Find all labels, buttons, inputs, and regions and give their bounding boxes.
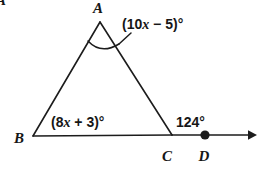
triangle-diagram-svg: A B C D (10x − 5)° (8x + 3)° 124°: [0, 0, 260, 170]
angle-b-degree: °: [99, 114, 105, 130]
angle-c-degree: °: [199, 114, 205, 130]
angle-label-a: (10x − 5)°: [122, 16, 183, 32]
angle-b-open: (8: [51, 114, 64, 130]
angle-a-operator: − 5): [149, 16, 177, 32]
vertex-label-d: D: [198, 148, 210, 164]
ray-arrowhead-icon: [248, 130, 257, 140]
angle-leader-a: [119, 33, 131, 44]
segment-ac: [100, 22, 172, 135]
vertex-label-b: B: [13, 130, 24, 146]
angle-b-variable: x: [62, 115, 70, 130]
angle-b-operator: + 3): [70, 114, 98, 130]
angle-label-exterior-c: 124°: [176, 114, 205, 130]
segment-bc: [33, 135, 172, 136]
geometry-figure: A A B C D (10x − 5)° (8x + 3)°: [0, 0, 260, 170]
angle-c-open: 124: [176, 114, 200, 130]
angle-a-degree: °: [178, 16, 184, 32]
angle-label-b: (8x + 3)°: [51, 114, 104, 130]
angle-a-variable: x: [141, 17, 149, 32]
vertex-label-a: A: [92, 0, 103, 16]
point-marker-d: [200, 130, 209, 139]
vertex-label-c: C: [162, 148, 173, 164]
angle-a-open: (10: [122, 16, 142, 32]
